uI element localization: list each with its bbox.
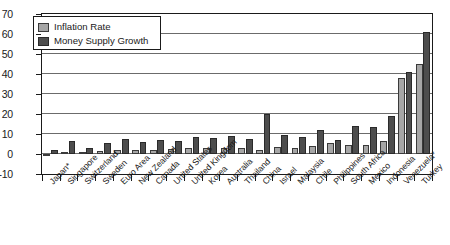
bar-infl (256, 150, 263, 154)
bar-infl (185, 148, 192, 154)
bar-infl (309, 146, 316, 154)
bar-money (352, 126, 359, 154)
bar-infl (416, 64, 423, 154)
legend-swatch-icon (38, 37, 49, 46)
bar-money (246, 139, 253, 154)
bar-money (122, 139, 129, 154)
bar-money (317, 130, 324, 154)
bar-money (406, 72, 413, 154)
bar-infl (61, 152, 68, 154)
bar-money (281, 135, 288, 154)
bar-money (335, 140, 342, 154)
y-axis-tick-mark (36, 134, 41, 135)
y-axis-tick-mark (36, 74, 41, 75)
bar-infl (43, 154, 50, 156)
bar-infl (292, 148, 299, 154)
legend-item-money-supply-growth: Money Supply Growth (38, 34, 156, 48)
bar-money (423, 32, 430, 154)
y-axis-tick-label: 60 (0, 29, 13, 40)
bar-infl (363, 145, 370, 154)
bar-infl (132, 150, 139, 154)
bar-money (264, 114, 271, 154)
y-axis-tick-label: 40 (0, 69, 13, 80)
bar-money (388, 116, 395, 154)
bar-infl (150, 150, 157, 154)
y-axis-tick-mark (36, 14, 41, 15)
bar-infl (345, 145, 352, 154)
bar-infl (398, 78, 405, 154)
y-axis-tick-mark (36, 174, 41, 175)
bar-infl (327, 143, 334, 154)
legend-swatch-icon (38, 23, 49, 32)
bar-infl (97, 151, 104, 154)
legend-label: Money Supply Growth (54, 36, 148, 46)
bar-money (69, 141, 76, 154)
x-axis-labels: Japan*SingaporeSwitzerlandSwedenEuro Are… (42, 180, 432, 244)
y-axis-tick-mark (36, 34, 41, 35)
bar-infl (274, 147, 281, 154)
bar-chart: Japan*SingaporeSwitzerlandSwedenEuro Are… (0, 0, 450, 245)
y-axis-tick-mark (36, 54, 41, 55)
legend-label: Inflation Rate (54, 22, 111, 32)
y-axis-tick-label: -10 (0, 169, 13, 180)
y-axis-tick-label: 10 (0, 129, 13, 140)
bar-money (299, 137, 306, 154)
legend-item-inflation-rate: Inflation Rate (38, 20, 156, 34)
bar-group (237, 14, 255, 174)
bar-group (326, 14, 344, 174)
y-axis-tick-mark (36, 154, 41, 155)
y-axis-tick-mark (36, 94, 41, 95)
bar-money (140, 142, 147, 154)
y-axis-tick-label: 70 (0, 9, 13, 20)
y-axis-tick-label: 50 (0, 49, 13, 60)
bar-money (51, 150, 58, 154)
bar-group (290, 14, 308, 174)
bar-group (255, 14, 273, 174)
y-axis-tick-label: 20 (0, 109, 13, 120)
bar-group (343, 14, 361, 174)
chart-legend: Inflation Rate Money Supply Growth (33, 16, 161, 50)
bar-group (397, 14, 415, 174)
bar-group (273, 14, 291, 174)
y-axis-tick-mark (36, 114, 41, 115)
y-axis-tick-label: 0 (0, 149, 13, 160)
bar-infl (79, 152, 86, 154)
bar-infl (238, 148, 245, 154)
y-axis-tick-label: 30 (0, 89, 13, 100)
bar-group (308, 14, 326, 174)
